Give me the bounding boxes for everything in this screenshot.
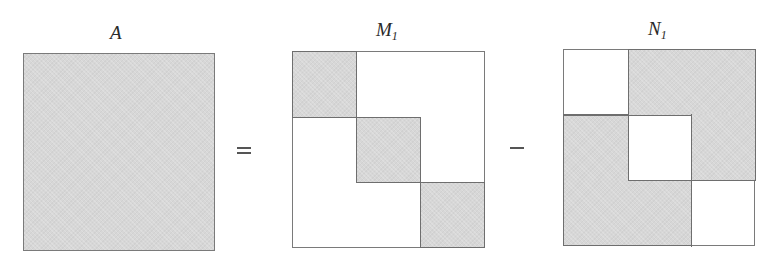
matrix-n1 [563,49,755,246]
matrix-m1-label-subscript: 1 [392,29,398,43]
matrix-m1-label: M1 [376,20,398,39]
minus-bar [510,147,524,149]
matrix-n1-label: N1 [648,19,667,38]
matrix-a-label: A [110,23,122,42]
minus-sign [510,146,524,150]
matrix-m1 [292,51,485,248]
matrix-n1-label-subscript: 1 [661,28,667,42]
m1-block-1-1 [292,51,357,118]
matrix-a-label-text: A [110,22,122,43]
equals-bar-bottom [237,152,251,154]
n1-grid-lines [564,50,756,247]
matrix-m1-label-text: M [376,19,392,40]
matrix-a [23,53,215,251]
m1-block-3-3 [420,182,485,248]
equals-bar-top [237,147,251,149]
matrix-n1-label-text: N [648,18,661,39]
equals-sign [237,146,251,154]
m1-block-2-2 [356,117,421,183]
